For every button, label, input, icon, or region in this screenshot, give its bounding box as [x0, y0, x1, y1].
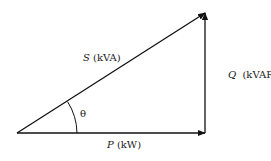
real-power-unit: (kW) — [114, 139, 141, 150]
power-triangle-diagram: θ S (kVA) Q (kVAR) P (kW) — [0, 0, 271, 161]
apparent-power-label: S (kVA) — [83, 52, 121, 63]
reactive-power-symbol: Q — [228, 69, 236, 80]
angle-arc — [68, 102, 77, 133]
apparent-power-vector — [17, 13, 205, 133]
apparent-power-unit: (kVA) — [90, 52, 121, 63]
angle-theta-label: θ — [80, 108, 86, 119]
real-power-label: P (kW) — [106, 139, 141, 150]
reactive-power-unit: (kVAR) — [236, 69, 271, 80]
reactive-power-label: Q (kVAR) — [212, 69, 271, 80]
